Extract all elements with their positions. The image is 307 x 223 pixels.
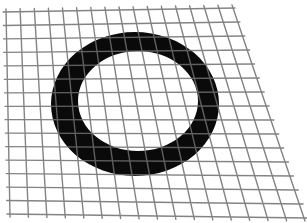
black-ring (51, 32, 219, 176)
grid-ring-illustration (0, 0, 307, 223)
hand-drawn-grid (3, 5, 307, 221)
